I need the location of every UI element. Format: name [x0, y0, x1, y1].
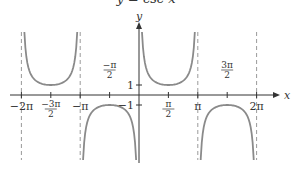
tick-labels: −2π−3π2−π−π2π2π3π22π1−1 — [10, 60, 264, 119]
x-tick-label: 2π — [249, 100, 263, 113]
y-axis-arrow-icon — [136, 22, 142, 29]
y-tick-label: −1 — [118, 99, 134, 112]
x-tick-label-numerator: 3π — [221, 60, 233, 70]
x-tick-label-denominator: 2 — [166, 109, 172, 119]
y-axis-label: y — [135, 10, 143, 23]
csc-branch — [201, 105, 254, 160]
axes: xy — [10, 10, 291, 163]
x-tick-label: π — [194, 100, 201, 113]
x-tick-label-numerator: π — [165, 99, 171, 109]
x-axis-arrow-icon — [273, 92, 280, 98]
csc-branch — [24, 32, 77, 85]
x-tick-label-denominator: 2 — [48, 109, 54, 119]
x-tick-label-numerator: −π — [103, 60, 117, 70]
x-tick-label: −2π — [10, 100, 33, 113]
y-tick-label: 1 — [127, 79, 134, 92]
csc-graph: xy −2π−3π2−π−π2π2π3π22π1−1 — [0, 0, 292, 174]
x-tick-label-denominator: 2 — [224, 70, 230, 80]
csc-branch — [83, 105, 136, 160]
csc-branch — [142, 32, 195, 85]
x-axis-label: x — [284, 89, 291, 102]
x-tick-label-denominator: 2 — [107, 70, 113, 80]
x-tick-label-numerator: −3π — [41, 99, 60, 109]
x-tick-label: −π — [72, 100, 88, 113]
